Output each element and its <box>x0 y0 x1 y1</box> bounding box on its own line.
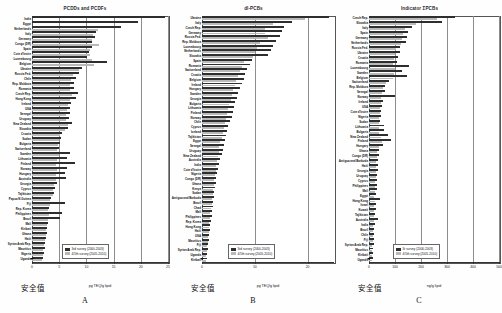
x-axis-tick <box>499 262 500 264</box>
category-label: Lithuania <box>169 107 201 110</box>
legend-item: 4/5th survey (2005-2010) <box>231 252 272 256</box>
category-label: USA <box>336 106 368 109</box>
category-label: Switzerland <box>0 148 31 151</box>
bar <box>32 214 49 216</box>
legend-swatch-light-icon <box>65 252 70 255</box>
bar <box>202 122 225 124</box>
category-label: Brazil <box>169 201 201 204</box>
category-label: Sudan <box>169 192 201 195</box>
bar <box>369 205 374 207</box>
category-label: Uruguay <box>169 149 201 152</box>
bar <box>369 166 376 168</box>
bar <box>369 186 375 188</box>
gridline <box>499 16 500 262</box>
category-label: Egypt <box>336 194 368 197</box>
bar <box>32 29 98 31</box>
x-axis-tick-label: 400 <box>470 265 476 269</box>
bar <box>202 236 208 238</box>
category-label: India <box>336 224 368 227</box>
bar <box>369 151 377 153</box>
bar <box>369 161 376 163</box>
bar <box>202 241 208 243</box>
category-label: Sweden <box>169 93 201 96</box>
bar <box>202 66 242 68</box>
category-label: Luxembourg <box>169 45 201 48</box>
bar <box>32 154 59 156</box>
plot-area-a: 0510152025IndiaEgyptNetherlandsItalyGerm… <box>0 0 170 313</box>
category-label: New Zealand <box>0 122 31 125</box>
category-label: USA <box>169 235 201 238</box>
category-label: Romania <box>169 64 201 67</box>
category-label: Antigua and Barbuda <box>169 197 201 200</box>
category-label: Tajikistan <box>169 135 201 138</box>
plot-area-b: 01020UkraineItalyCzech Rep.GermanyRussia… <box>170 0 337 313</box>
category-label: Spain <box>0 47 31 50</box>
bar <box>202 75 238 77</box>
category-label: Australia <box>0 178 31 181</box>
category-label: Israel <box>336 204 368 207</box>
bar <box>202 33 265 35</box>
bar <box>32 54 90 56</box>
bar <box>369 220 374 222</box>
category-label: Mauritius <box>169 239 201 242</box>
category-label: Lithuania <box>336 125 368 128</box>
legend-swatch-light-icon <box>396 252 401 255</box>
category-label: Spain <box>336 32 368 35</box>
gridline <box>473 16 474 262</box>
bar <box>202 174 215 176</box>
bar <box>32 99 70 101</box>
bar <box>369 48 396 50</box>
category-label: Russia Fed. <box>336 47 368 50</box>
bar <box>202 146 219 148</box>
category-label: Germany <box>0 37 31 40</box>
bar <box>202 94 232 96</box>
category-label: Hong Kong <box>336 199 368 202</box>
category-label: Egypt <box>0 22 31 25</box>
category-label: Tajikistan <box>336 214 368 217</box>
category-label: Czech Rep. <box>169 26 201 29</box>
bar <box>32 164 56 166</box>
category-label: Philippines <box>0 213 31 216</box>
category-label: Italy <box>169 22 201 25</box>
bar <box>32 129 65 131</box>
category-label: Tajikistan <box>0 193 31 196</box>
category-label: Mauritius <box>336 248 368 251</box>
plot-area-c: 0100200300400500Czech Rep.SlovakiaItalyS… <box>337 0 502 313</box>
bar <box>202 104 229 106</box>
bar <box>369 23 416 25</box>
category-label: Cyprus <box>169 126 201 129</box>
bar <box>202 132 223 134</box>
legend-c: 3r survey (2000-2003) 4/5th survey (2005… <box>393 244 440 259</box>
bar <box>202 255 206 257</box>
bar <box>369 210 374 212</box>
bar <box>202 99 231 101</box>
category-label: Russia Fed. <box>0 72 31 75</box>
category-label: Mali <box>0 223 31 226</box>
bar <box>32 169 57 171</box>
bar <box>369 97 381 99</box>
bar <box>32 254 43 256</box>
bar <box>369 63 393 65</box>
category-label: Chad <box>169 206 201 209</box>
x-axis-line <box>369 262 499 263</box>
bar <box>202 212 210 214</box>
category-label: Russia Fed. <box>169 36 201 39</box>
bar <box>369 230 373 232</box>
bar <box>369 78 393 80</box>
x-axis-line <box>202 262 334 263</box>
bar <box>202 28 265 30</box>
bar <box>32 39 92 41</box>
bar <box>32 234 46 236</box>
category-label: Fiji <box>0 203 31 206</box>
category-label: Italy <box>336 27 368 30</box>
bar <box>32 204 50 206</box>
category-label: Antigua and Barbuda <box>336 160 368 163</box>
category-label: Norway <box>336 96 368 99</box>
bar <box>202 250 207 252</box>
category-label: Czech Rep. <box>336 17 368 20</box>
category-label: India <box>0 17 31 20</box>
bar <box>202 208 211 210</box>
bar <box>32 229 46 231</box>
category-label: Sweden <box>0 153 31 156</box>
category-label: Uganda <box>169 253 201 256</box>
